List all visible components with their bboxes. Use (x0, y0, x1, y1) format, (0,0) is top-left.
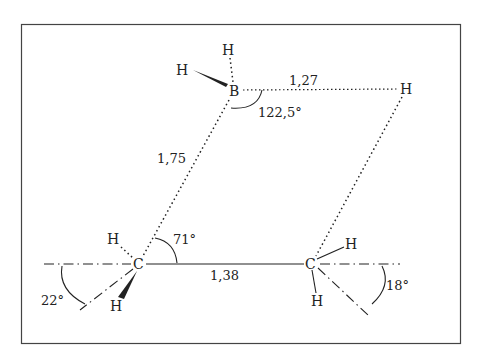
bond-b-h-left-wedge (193, 70, 228, 87)
label-angle-right-tilt: 18° (386, 278, 409, 293)
bond-cright-h-down (312, 270, 316, 293)
angle-arc-right (372, 266, 385, 304)
atom-h-bridge: H (400, 81, 412, 97)
atom-h-b-top: H (222, 42, 234, 58)
atom-h-cright-up: H (345, 236, 357, 252)
ref-line-right-tilted (318, 268, 369, 316)
label-angle-b-c-c: 71° (173, 232, 196, 247)
diagram-frame (22, 25, 461, 344)
angle-arc-left (61, 266, 85, 304)
atom-b: B (229, 83, 239, 99)
label-bond-c-c: 1,38 (210, 268, 239, 283)
bond-cleft-h-down-wedge (118, 271, 137, 299)
label-bond-b-c-left: 1,75 (157, 151, 186, 166)
atom-h-cleft-down: H (110, 298, 122, 314)
bond-h-c-right (316, 97, 402, 256)
label-bond-b-h-bridge: 1,27 (289, 73, 318, 88)
atom-h-b-left: H (176, 62, 188, 78)
bond-b-h-top (230, 58, 233, 82)
bond-cleft-h-up (121, 247, 133, 258)
molecular-structure-diagram: B H H H C H H C H H 1,27 122,5° 1,75 71°… (0, 0, 478, 360)
atom-c-right: C (305, 256, 316, 272)
bond-b-h-bridge (243, 89, 398, 90)
atom-h-cright-down: H (311, 293, 323, 309)
atom-h-cleft-up: H (107, 231, 119, 247)
label-angle-left-tilt: 22° (41, 293, 64, 308)
atom-c-left: C (133, 256, 144, 272)
label-angle-h-b-c: 122,5° (258, 105, 302, 120)
bond-cright-h-up (317, 247, 344, 259)
